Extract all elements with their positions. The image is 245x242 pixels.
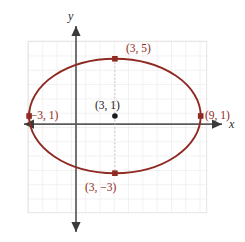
grid-lines — [28, 41, 207, 213]
marker-center — [112, 113, 118, 119]
marker-right — [198, 113, 204, 119]
marker-left — [26, 113, 32, 119]
graph-figure: (3, 5) (−3, 1) (9, 1) (3, −3) (3, 1) y x — [0, 0, 245, 242]
marker-top — [112, 56, 118, 62]
coordinate-plane — [0, 0, 245, 242]
marker-bottom — [112, 170, 118, 176]
